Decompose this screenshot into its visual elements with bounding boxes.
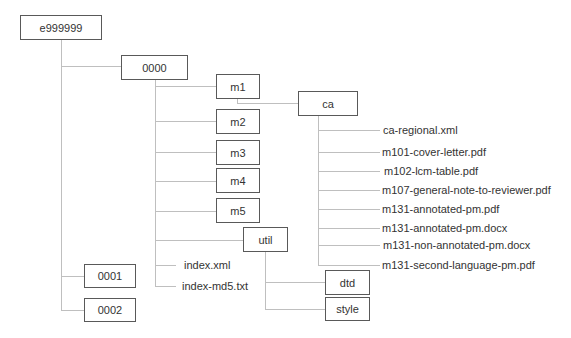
- connector-ca-file-2: [318, 171, 380, 172]
- node-sequence-0001: 0001: [84, 264, 136, 288]
- connector-ca-file-6: [318, 245, 380, 246]
- node-sequence-0000: 0000: [121, 55, 188, 80]
- connector-ca-file-3: [318, 190, 380, 191]
- node-module-m2: m2: [216, 109, 260, 134]
- connector-root-0002: [61, 310, 84, 311]
- connector-ca-file-1: [318, 152, 380, 153]
- connector-root-0000: [61, 66, 121, 67]
- node-util-style: style: [325, 297, 370, 321]
- node-util-dtd: dtd: [325, 270, 370, 295]
- file-index-md5: index-md5.txt: [182, 280, 248, 292]
- connector-0000-m2: [155, 121, 216, 122]
- file-m131-non-annotated-docx: m131-non-annotated-pm.docx: [383, 239, 530, 251]
- connector-ca-file-5: [318, 228, 380, 229]
- connector-util-trunk: [265, 251, 266, 309]
- connector-0000-index-md5: [155, 286, 176, 287]
- file-m131-annotated-pdf: m131-annotated-pm.pdf: [382, 203, 499, 215]
- connector-m1-ca: [237, 103, 298, 104]
- connector-root-0001: [61, 276, 84, 277]
- connector-0000-m5: [155, 211, 216, 212]
- node-sequence-0002: 0002: [84, 298, 136, 322]
- connector-0000-m4: [155, 181, 216, 182]
- file-m102: m102-lcm-table.pdf: [384, 165, 478, 177]
- node-module-m3: m3: [216, 140, 260, 165]
- connector-0000-util: [155, 240, 243, 241]
- connector-0000-m1: [155, 86, 216, 87]
- file-ca-regional: ca-regional.xml: [383, 124, 458, 136]
- node-module-m4: m4: [216, 168, 260, 193]
- connector-ca-file-0: [318, 130, 380, 131]
- file-m107: m107-general-note-to-reviewer.pdf: [382, 184, 551, 196]
- connector-0000-m3: [155, 152, 216, 153]
- node-util: util: [243, 227, 288, 252]
- connector-ca-file-7: [318, 265, 380, 266]
- file-m101: m101-cover-letter.pdf: [382, 146, 486, 158]
- node-module-m5: m5: [216, 198, 260, 223]
- node-region-ca: ca: [298, 91, 358, 116]
- node-module-m1: m1: [216, 74, 260, 99]
- connector-ca-file-4: [318, 209, 380, 210]
- file-m131-second-language: m131-second-language-pm.pdf: [382, 259, 535, 271]
- file-index-xml: index.xml: [184, 259, 230, 271]
- connector-0000-index-xml: [155, 265, 176, 266]
- file-m131-annotated-docx: m131-annotated-pm.docx: [382, 222, 507, 234]
- connector-0000-trunk: [155, 79, 156, 286]
- node-root: e999999: [20, 15, 102, 40]
- connector-util-style: [265, 309, 325, 310]
- connector-root-trunk: [61, 39, 62, 310]
- connector-util-dtd: [265, 282, 325, 283]
